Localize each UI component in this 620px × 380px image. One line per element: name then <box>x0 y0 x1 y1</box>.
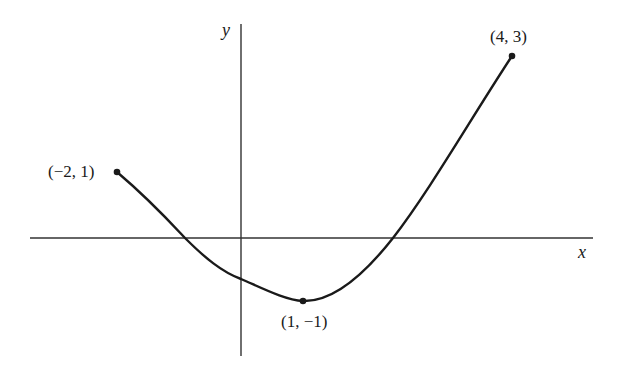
y-axis-label: y <box>222 21 230 39</box>
point-left-label: (−2, 1) <box>48 163 94 180</box>
point-min-label: (1, −1) <box>281 313 327 330</box>
graph-figure: y x (−2, 1) (1, −1) (4, 3) <box>0 0 620 380</box>
point-right-label: (4, 3) <box>490 28 527 45</box>
x-axis-label: x <box>578 243 586 261</box>
point-left-endpoint <box>114 169 121 176</box>
point-right-endpoint <box>509 53 516 60</box>
function-curve <box>117 56 512 301</box>
point-minimum <box>300 298 307 305</box>
